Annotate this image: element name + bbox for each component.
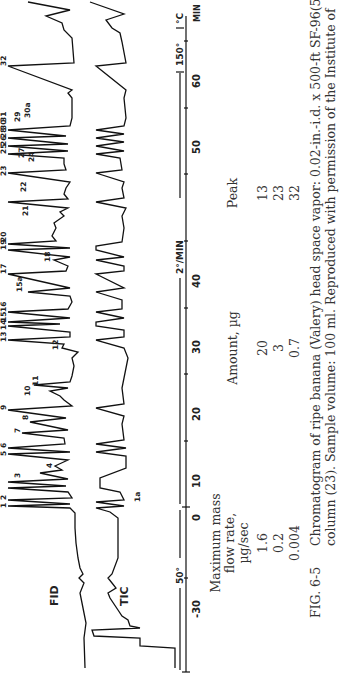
table-cell-peak: 13 — [255, 158, 270, 228]
svg-text:21: 21 — [21, 206, 30, 216]
svg-text:30a: 30a — [23, 103, 32, 119]
svg-text:15a: 15a — [15, 277, 24, 293]
svg-text:10: 10 — [191, 474, 202, 488]
svg-text:6: 6 — [0, 443, 8, 448]
svg-text:7: 7 — [13, 428, 22, 433]
tic-label: TIC — [118, 586, 131, 606]
svg-text:18: 18 — [43, 252, 52, 262]
svg-text:20: 20 — [191, 407, 202, 421]
figure-number: FIG. 6-5 — [308, 546, 323, 618]
axis-labels: -30 0 10 20 30 40 50 60 MIN 50° 2°/MIN 1… — [175, 4, 202, 618]
table-cell-flow: 1.6 — [255, 498, 270, 588]
document-page: FID TIC 1 2 3 4 5 6 7 8 9 10 11 12 13 14… — [0, 0, 351, 678]
figure-caption: FIG. 6-5Chromatogram of ripe banana (Val… — [308, 18, 338, 618]
fid-label: FID — [48, 585, 61, 606]
svg-text:12: 12 — [51, 340, 60, 350]
svg-text:50°: 50° — [175, 567, 185, 584]
svg-text:29: 29 — [13, 112, 22, 122]
svg-text:32: 32 — [0, 56, 8, 66]
svg-text:27: 27 — [17, 148, 26, 158]
svg-text:10: 10 — [23, 386, 32, 396]
caption-line-2: column (23). Sample volume: 100 ml. Repr… — [323, 18, 338, 618]
svg-text:20: 20 — [0, 232, 8, 242]
svg-text:50: 50 — [191, 140, 202, 154]
table-cell-flow: 0.004 — [287, 498, 302, 588]
svg-text:23: 23 — [0, 166, 8, 176]
table-header-peak: Peak — [225, 158, 240, 228]
svg-text:MIN: MIN — [193, 4, 202, 22]
table-cell-peak: 32 — [287, 158, 302, 228]
svg-text:16: 16 — [0, 302, 8, 312]
svg-text:2: 2 — [0, 495, 8, 500]
svg-text:40: 40 — [191, 274, 202, 288]
chromatogram: FID TIC 1 2 3 4 5 6 7 8 9 10 11 12 13 14… — [0, 0, 215, 678]
caption-line-1: Chromatogram of ripe banana (Valery) hea… — [308, 0, 323, 546]
svg-text:-30: -30 — [191, 600, 202, 618]
svg-text:1: 1 — [0, 503, 8, 508]
svg-text:15: 15 — [0, 312, 8, 322]
svg-text:1a: 1a — [133, 492, 142, 502]
table-header-amount: Amount, µg — [225, 288, 240, 408]
fid-trace — [8, 2, 86, 668]
table-cell-amount: 20 — [255, 318, 270, 378]
svg-text:150°: 150° — [175, 43, 185, 66]
svg-text:3: 3 — [13, 473, 22, 478]
svg-text:22: 22 — [19, 182, 28, 192]
svg-text:13: 13 — [0, 332, 8, 342]
svg-text:2°/MIN: 2°/MIN — [175, 240, 185, 274]
table-cell-flow: 0.2 — [271, 498, 286, 588]
table-cell-peak: 23 — [271, 158, 286, 228]
svg-text:9: 9 — [0, 405, 8, 410]
tic-trace — [90, 2, 175, 668]
svg-text:60: 60 — [191, 74, 202, 88]
svg-text:4: 4 — [45, 463, 54, 468]
table-cell-amount: 0.7 — [287, 318, 302, 378]
svg-text:17: 17 — [0, 264, 8, 274]
svg-text:24: 24 — [27, 152, 36, 162]
svg-text:31: 31 — [0, 112, 8, 122]
svg-text:11: 11 — [31, 376, 40, 386]
svg-text:°C: °C — [175, 13, 185, 25]
svg-text:0: 0 — [191, 514, 202, 521]
table-header-flow: Maximum mass flow rate, µg/sec — [209, 468, 251, 618]
table-cell-amount: 3 — [271, 318, 286, 378]
svg-text:5: 5 — [0, 451, 8, 456]
svg-text:8: 8 — [21, 415, 30, 420]
svg-text:30: 30 — [191, 340, 202, 354]
data-table: Peak Amount, µg Maximum mass flow rate, … — [215, 0, 295, 678]
